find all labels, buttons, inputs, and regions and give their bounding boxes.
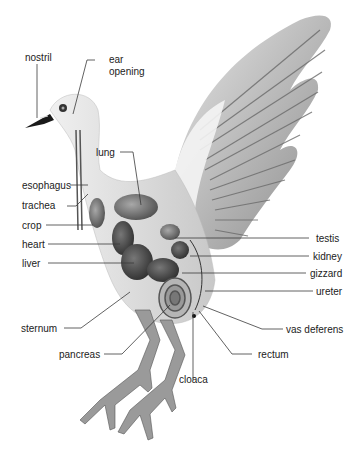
label-cloaca: cloaca [179,374,208,385]
crop-organ [89,198,105,228]
label-esophagus: esophagus [22,180,71,191]
legs [80,310,185,440]
bird-anatomy-illustration [0,0,360,453]
kidney-organ [171,241,189,259]
label-gizzard: gizzard [310,268,342,279]
label-pancreas: pancreas [59,349,100,360]
label-rectum: rectum [258,349,289,360]
label-heart: heart [22,239,45,250]
label-ear-opening-line1: ear [109,54,123,65]
label-testis: testis [316,233,339,244]
liver-organ [121,244,153,280]
label-ureter: ureter [316,286,342,297]
label-lung: lung [96,147,115,158]
label-ear-opening-line2: opening [109,66,145,77]
lung-organ [114,194,158,220]
label-vas-deferens: vas deferens [286,324,343,335]
label-nostril: nostril [25,52,52,63]
label-sternum: sternum [21,323,57,334]
label-kidney: kidney [313,251,342,262]
label-liver: liver [22,258,40,269]
label-trachea: trachea [22,200,55,211]
label-crop: crop [22,220,41,231]
